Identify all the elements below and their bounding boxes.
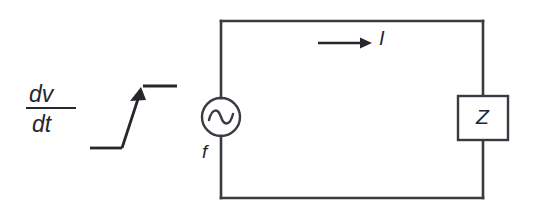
- current-label: I: [379, 28, 385, 48]
- ac-source-symbol: [202, 98, 240, 136]
- ramp-rising-slope: [122, 99, 138, 148]
- impedance-label: Z: [476, 106, 489, 127]
- sine-wave-icon: [209, 111, 233, 124]
- ramp-arrow-head: [130, 87, 146, 101]
- current-arrow-icon: [318, 38, 372, 49]
- ramp-waveform-icon: [90, 86, 177, 148]
- current-arrow-head: [360, 38, 372, 49]
- derivative-numerator-label: dv: [29, 83, 53, 106]
- circuit-diagram-svg: [0, 0, 533, 222]
- frequency-label: f: [202, 142, 207, 161]
- derivative-denominator-label: dt: [32, 113, 51, 136]
- circuit-loop-wires: [221, 21, 483, 198]
- circuit-diagram-canvas: dv dt I Z f: [0, 0, 533, 222]
